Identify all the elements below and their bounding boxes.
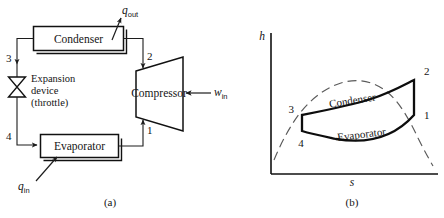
panel-a-caption: (a) xyxy=(104,196,117,209)
hs-chart-panel: h s 2 1 3 4 Condenser Evaporator (b) xyxy=(259,30,438,209)
state-point-4-schematic: 4 xyxy=(6,130,12,142)
w-in-label: win xyxy=(214,86,228,101)
chart-x-axis-label: s xyxy=(350,176,355,188)
chart-state-point-2: 2 xyxy=(424,65,430,77)
q-out-subscript: out xyxy=(128,10,139,19)
pipe-3-segment xyxy=(17,39,34,65)
condenser-label: Condenser xyxy=(54,33,103,45)
compressor-component: Compressor xyxy=(131,57,187,131)
expansion-device-component: Expansion device (throttle) xyxy=(9,73,77,109)
chart-state-point-3: 3 xyxy=(289,103,295,115)
evaporator-label: Evaporator xyxy=(54,140,105,153)
q-in-label: qin xyxy=(18,180,30,195)
figure-canvas: Condenser qout 3 Expansion device (thr xyxy=(0,0,444,218)
q-out-label: qout xyxy=(122,4,139,19)
state-point-2-schematic: 2 xyxy=(147,50,153,62)
chart-y-axis-label: h xyxy=(259,30,265,42)
q-in-flow: qin xyxy=(18,157,57,195)
pipe-evaporator-to-compressor: 1 xyxy=(119,120,153,146)
refrigeration-cycle-figure: Condenser qout 3 Expansion device (thr xyxy=(0,0,444,218)
w-in-flow: win xyxy=(186,86,228,101)
expansion-device-label-line3: (throttle) xyxy=(31,97,69,109)
expansion-device-label-line1: Expansion xyxy=(31,73,76,84)
throttle-valve-icon xyxy=(9,77,26,97)
expansion-device-label-line2: device xyxy=(31,85,59,96)
schematic-panel: Condenser qout 3 Expansion device (thr xyxy=(6,4,228,209)
compressor-label: Compressor xyxy=(131,87,187,100)
evaporator-component: Evaporator xyxy=(41,135,122,161)
w-in-subscript: in xyxy=(222,92,228,101)
chart-state-point-1: 1 xyxy=(424,109,430,121)
panel-b-caption: (b) xyxy=(346,196,359,209)
chart-condenser-annotation: Condenser xyxy=(328,90,377,109)
pipe-compressor-to-condenser: 2 xyxy=(124,39,153,69)
state-point-3-schematic: 3 xyxy=(6,52,12,64)
state-point-1-schematic: 1 xyxy=(147,124,153,136)
chart-state-point-4: 4 xyxy=(298,137,304,149)
q-in-subscript: in xyxy=(24,186,30,195)
pipe-condenser-to-valve: 3 xyxy=(6,39,34,78)
